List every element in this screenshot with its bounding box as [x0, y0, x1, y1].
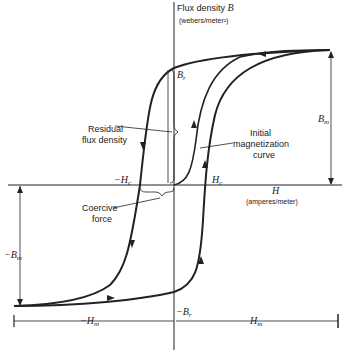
y-axis-units: (webers/meter²): [179, 17, 228, 25]
ascending-branch: [14, 50, 330, 306]
neg-bm-label: −Bm: [4, 249, 22, 262]
h-axis-label: H: [271, 185, 280, 196]
arrow-icon: [258, 51, 266, 57]
initial-label-2: magnetization: [233, 139, 289, 149]
descending-branch: [14, 50, 330, 306]
arrow-icon: [107, 295, 115, 301]
hysteresis-diagram: Flux density B (webers/meter²) Br −Br −H…: [0, 0, 344, 357]
br-label: Br: [177, 69, 186, 82]
residual-label-2: flux density: [82, 135, 128, 145]
neg-hm-label: −Hm: [80, 315, 99, 328]
initial-label-3: curve: [253, 150, 275, 160]
coercive-label-1: Coercive: [82, 203, 118, 213]
y-axis-label: Flux density B: [177, 2, 234, 13]
arrow-icon: [191, 120, 197, 128]
hm-label: Hm: [249, 315, 262, 328]
residual-label-1: Residual: [88, 124, 123, 134]
bm-label: Bm: [318, 113, 329, 126]
coercive-label-2: force: [92, 214, 112, 224]
h-axis-units: (amperes/meter): [246, 198, 298, 206]
initial-magnetization-curve: [174, 50, 330, 185]
neg-br-label: −Br: [176, 306, 192, 319]
initial-label-1: Initial: [250, 128, 271, 138]
